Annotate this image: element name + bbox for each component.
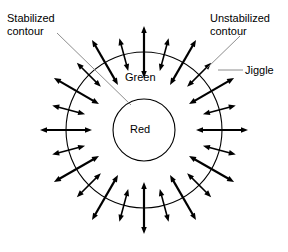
arrow-head <box>92 98 99 104</box>
label-unstabilized-contour: Unstabilized contour <box>210 12 270 37</box>
arrow-head <box>141 227 147 234</box>
arrow-head <box>227 78 234 84</box>
arrow-head <box>159 189 164 196</box>
arrow-head <box>190 213 196 220</box>
arrow-head <box>54 176 61 182</box>
arrow-head <box>228 150 235 155</box>
arrow-head <box>170 175 176 182</box>
arrow-head <box>92 40 98 47</box>
arrow-head <box>159 64 164 71</box>
label-stabilized-contour: Stabilized contour <box>7 12 55 37</box>
arrow-head <box>112 78 118 85</box>
arrow-head <box>164 38 169 45</box>
label-red-region: Red <box>130 123 150 136</box>
arrow-head <box>78 110 85 115</box>
label-green-region: Green <box>125 71 156 84</box>
arrow-head <box>164 214 169 221</box>
arrow-head <box>119 214 124 221</box>
arrow-head <box>241 127 248 133</box>
label-jiggle: Jiggle <box>245 64 274 77</box>
leader-lines-group <box>57 33 243 105</box>
arrow-head <box>196 127 203 133</box>
arrow-head <box>203 110 210 115</box>
arrow-head <box>141 26 147 33</box>
arrow-head <box>124 189 129 196</box>
arrow-head <box>54 78 61 84</box>
arrow-head <box>170 78 176 85</box>
arrow-head <box>227 176 234 182</box>
arrow-head <box>52 150 59 155</box>
arrow-head <box>40 127 47 133</box>
figure-container: Stabilized contour Unstabilized contour … <box>0 0 288 252</box>
arrow-head <box>52 105 59 110</box>
arrow-head <box>189 156 196 162</box>
arrow-head <box>189 98 196 104</box>
arrow-head <box>124 64 129 71</box>
arrow-head <box>78 145 85 150</box>
arrow-head <box>190 40 196 47</box>
arrow-head <box>203 145 210 150</box>
leader-line-unstabilized <box>206 36 240 69</box>
arrow-head <box>85 127 92 133</box>
arrow-head <box>141 182 147 189</box>
arrow-head <box>92 156 99 162</box>
arrow-head <box>112 175 118 182</box>
arrow-head <box>228 105 235 110</box>
arrow-head <box>92 213 98 220</box>
arrow-head <box>119 38 124 45</box>
